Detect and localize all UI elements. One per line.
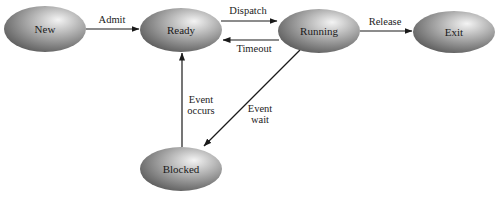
event-wait-label-line2: wait [251,114,269,125]
transition-release: Release [360,16,412,31]
transition-event-wait: Event wait [204,50,300,146]
state-ready-label: Ready [167,24,196,36]
state-exit-label: Exit [445,26,463,38]
process-state-diagram: Admit Dispatch Timeout Release Event wai… [0,0,498,199]
state-exit: Exit [413,11,495,53]
admit-label: Admit [99,14,126,25]
transition-admit: Admit [86,14,139,29]
transition-timeout: Timeout [223,40,279,54]
event-wait-arrow [204,50,300,146]
event-wait-label-line1: Event [248,103,273,114]
release-label: Release [369,16,402,27]
state-new-label: New [35,23,56,35]
state-ready: Ready [140,8,222,52]
state-blocked: Blocked [140,147,222,191]
state-new: New [4,6,86,52]
state-running-label: Running [300,25,338,37]
state-running: Running [278,9,360,53]
state-blocked-label: Blocked [163,163,200,175]
dispatch-label: Dispatch [229,5,267,16]
event-occurs-label-line1: Event [189,94,214,105]
timeout-label: Timeout [236,43,271,54]
transition-event-occurs: Event occurs [182,53,215,147]
event-occurs-label-line2: occurs [187,105,214,116]
transition-dispatch: Dispatch [221,5,277,21]
